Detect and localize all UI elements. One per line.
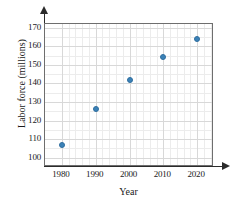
gridline-horizontal-minor bbox=[45, 93, 212, 94]
gridline-vertical-minor bbox=[184, 24, 185, 165]
data-point bbox=[194, 36, 200, 42]
gridline-horizontal-minor bbox=[45, 56, 212, 57]
gridline-vertical-minor bbox=[109, 24, 110, 165]
gridline-horizontal-minor bbox=[45, 37, 212, 38]
gridline-horizontal bbox=[45, 83, 212, 84]
gridline-horizontal bbox=[45, 158, 212, 159]
gridline-horizontal-minor bbox=[45, 148, 212, 149]
gridline-vertical bbox=[96, 24, 97, 165]
gridline-horizontal-minor bbox=[45, 111, 212, 112]
data-point bbox=[93, 106, 99, 112]
gridline-vertical-minor bbox=[69, 24, 70, 165]
plot-area bbox=[44, 23, 213, 166]
x-tick-label: 2020 bbox=[176, 170, 216, 179]
gridline-vertical-minor bbox=[143, 24, 144, 165]
gridline-vertical bbox=[163, 24, 164, 165]
gridline-vertical-minor bbox=[150, 24, 151, 165]
minor-gridlines bbox=[45, 24, 212, 165]
gridline-vertical-minor bbox=[157, 24, 158, 165]
major-gridlines bbox=[45, 24, 212, 165]
gridline-vertical bbox=[130, 24, 131, 165]
gridline-vertical-minor bbox=[170, 24, 171, 165]
data-point bbox=[160, 54, 166, 60]
gridline-horizontal bbox=[45, 121, 212, 122]
gridline-horizontal-minor bbox=[45, 130, 212, 131]
data-point bbox=[127, 77, 133, 83]
gridline-vertical-minor bbox=[190, 24, 191, 165]
gridline-vertical bbox=[197, 24, 198, 165]
gridline-horizontal bbox=[45, 102, 212, 103]
gridline-vertical-minor bbox=[102, 24, 103, 165]
gridline-horizontal bbox=[45, 139, 212, 140]
gridline-horizontal bbox=[45, 65, 212, 66]
x-axis-title: Year bbox=[44, 186, 213, 197]
gridline-vertical-minor bbox=[177, 24, 178, 165]
x-axis-tick-labels: 19801990200020102020 bbox=[44, 170, 213, 182]
gridline-horizontal bbox=[45, 46, 212, 47]
gridline-vertical-minor bbox=[75, 24, 76, 165]
gridline-horizontal-minor bbox=[45, 74, 212, 75]
labor-force-scatter-chart: 100110120130140150160170 198019902000201… bbox=[0, 0, 237, 206]
gridline-horizontal bbox=[45, 28, 212, 29]
gridline-vertical-minor bbox=[82, 24, 83, 165]
gridline-vertical-minor bbox=[211, 24, 212, 165]
x-axis-arrowhead-icon bbox=[222, 162, 230, 170]
data-point bbox=[59, 142, 65, 148]
gridline-vertical-minor bbox=[116, 24, 117, 165]
gridline-vertical-minor bbox=[204, 24, 205, 165]
gridline-vertical-minor bbox=[136, 24, 137, 165]
gridline-vertical-minor bbox=[123, 24, 124, 165]
x-axis-line bbox=[44, 166, 224, 167]
y-axis-title: Labor force (millions) bbox=[16, 9, 27, 159]
gridline-vertical-minor bbox=[89, 24, 90, 165]
